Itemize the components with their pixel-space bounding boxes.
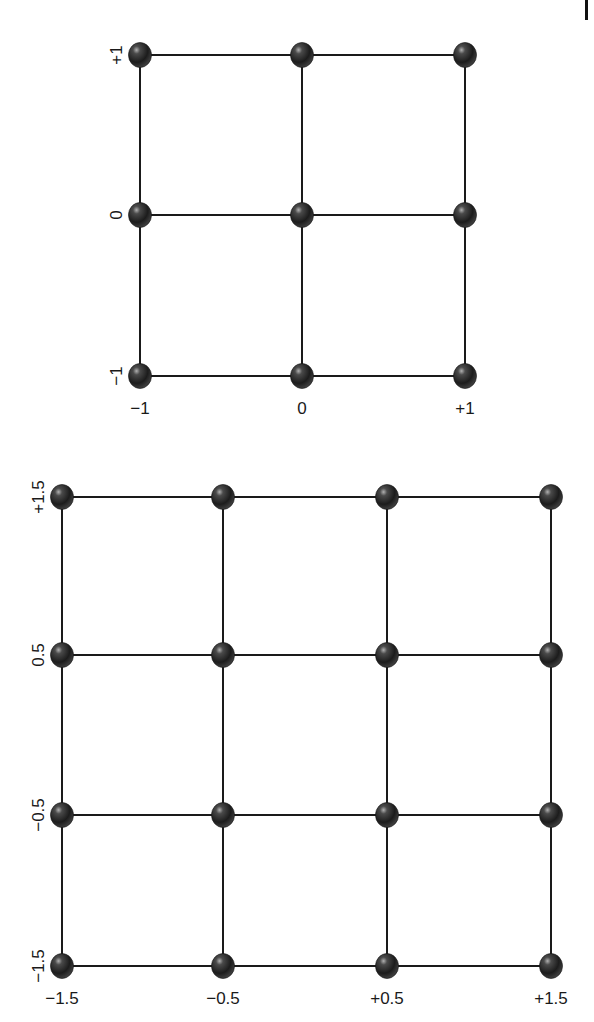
lattice-node-sphere xyxy=(291,203,314,228)
lattice-4x4: −1.5−0.5+0.5+1.5 −1.5−0.50.5+1.5 xyxy=(29,480,568,1008)
y-tick-label: −1 xyxy=(107,366,126,385)
y-tick-label: 0.5 xyxy=(29,643,48,667)
x-axis-tick-labels: −10+1 xyxy=(130,399,474,418)
lattice-3x3: −10+1 −10+1 xyxy=(107,43,477,419)
x-axis-tick-labels: −1.5−0.5+0.5+1.5 xyxy=(45,989,568,1008)
x-tick-label: −1.5 xyxy=(45,989,79,1008)
x-tick-label: +1.5 xyxy=(534,989,568,1008)
lattice-node-sphere xyxy=(129,203,152,228)
lattice-node-sphere xyxy=(540,803,563,828)
lattice-edges xyxy=(62,497,551,966)
y-axis-tick-labels: −10+1 xyxy=(107,45,126,385)
lattice-node-sphere xyxy=(51,954,74,979)
lattice-node-sphere xyxy=(540,643,563,668)
lattice-node-sphere xyxy=(51,643,74,668)
lattice-node-sphere xyxy=(51,803,74,828)
y-tick-label: 0 xyxy=(107,210,126,219)
lattice-node-sphere xyxy=(212,485,235,510)
lattice-nodes xyxy=(51,485,563,979)
lattice-node-sphere xyxy=(376,643,399,668)
y-tick-label: +1 xyxy=(107,45,126,64)
lattice-node-sphere xyxy=(212,954,235,979)
lattice-node-sphere xyxy=(212,803,235,828)
lattice-diagrams: −10+1 −10+1 −1.5−0.5+0.5+1.5 −1.5−0.50.5… xyxy=(0,0,594,1022)
x-tick-label: 0 xyxy=(297,399,306,418)
lattice-node-sphere xyxy=(291,43,314,68)
lattice-node-sphere xyxy=(129,364,152,389)
y-tick-label: +1.5 xyxy=(29,480,48,514)
lattice-node-sphere xyxy=(540,954,563,979)
x-tick-label: −1 xyxy=(130,399,149,418)
lattice-node-sphere xyxy=(376,954,399,979)
y-tick-label: −1.5 xyxy=(29,949,48,983)
lattice-node-sphere xyxy=(454,203,477,228)
lattice-node-sphere xyxy=(129,43,152,68)
x-tick-label: +1 xyxy=(455,399,474,418)
lattice-node-sphere xyxy=(540,485,563,510)
lattice-node-sphere xyxy=(454,364,477,389)
y-axis-tick-labels: −1.5−0.50.5+1.5 xyxy=(29,480,48,983)
lattice-node-sphere xyxy=(454,43,477,68)
lattice-node-sphere xyxy=(376,485,399,510)
x-tick-label: +0.5 xyxy=(370,989,404,1008)
lattice-node-sphere xyxy=(291,364,314,389)
y-tick-label: −0.5 xyxy=(29,798,48,832)
lattice-node-sphere xyxy=(376,803,399,828)
lattice-node-sphere xyxy=(51,485,74,510)
lattice-node-sphere xyxy=(212,643,235,668)
x-tick-label: −0.5 xyxy=(206,989,240,1008)
